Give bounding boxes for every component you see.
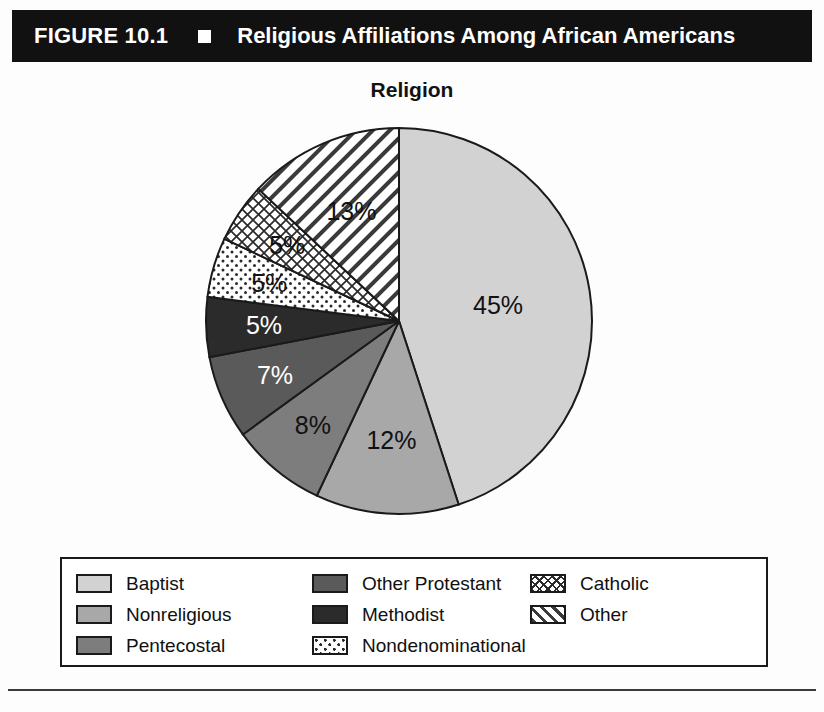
legend-swatch-icon (76, 636, 112, 655)
legend-swatch-icon (312, 574, 348, 593)
legend-swatch-icon (312, 605, 348, 624)
pie-slice-label: 8% (295, 411, 331, 439)
legend-swatch-icon (530, 574, 566, 593)
figure-title: Religious Affiliations Among African Ame… (237, 23, 735, 49)
legend-item-label: Methodist (362, 604, 444, 626)
legend-swatch-icon (312, 636, 348, 655)
figure-header-bar: FIGURE 10.1 Religious Affiliations Among… (12, 10, 812, 62)
legend-item[interactable]: Catholic (530, 573, 784, 595)
pie-slice-label: 12% (366, 426, 416, 454)
legend: BaptistOther ProtestantCatholicNonreligi… (60, 557, 768, 667)
legend-item-label: Catholic (580, 573, 649, 595)
bottom-divider (8, 689, 816, 691)
legend-item[interactable]: Nonreligious (76, 604, 312, 626)
figure-number: FIGURE 10.1 (34, 23, 168, 49)
legend-item-label: Baptist (126, 573, 184, 595)
legend-item[interactable]: Nondenominational (312, 635, 530, 657)
legend-item[interactable]: Other Protestant (312, 573, 530, 595)
legend-item[interactable]: Other (530, 604, 784, 626)
legend-swatch-icon (76, 605, 112, 624)
pie-slice-label: 45% (473, 291, 523, 319)
chart-title: Religion (0, 78, 824, 102)
legend-item-label: Other Protestant (362, 573, 501, 595)
legend-item-label: Nonreligious (126, 604, 232, 626)
pie-chart-svg: 45%12%8%7%5%5%5%13% (0, 110, 824, 540)
legend-item[interactable]: Pentecostal (76, 635, 312, 657)
black-square-icon (198, 30, 211, 43)
pie-slice-label: 5% (246, 311, 282, 339)
legend-item[interactable]: Baptist (76, 573, 312, 595)
pie-slice-label: 5% (251, 269, 287, 297)
legend-swatch-icon (76, 574, 112, 593)
pie-slice-label: 5% (269, 231, 305, 259)
legend-item-label: Other (580, 604, 628, 626)
legend-item-label: Pentecostal (126, 635, 225, 657)
legend-item-label: Nondenominational (362, 635, 526, 657)
pie-slice-label: 7% (257, 361, 293, 389)
legend-grid: BaptistOther ProtestantCatholicNonreligi… (76, 568, 766, 661)
legend-item[interactable]: Methodist (312, 604, 530, 626)
pie-chart: 45%12%8%7%5%5%5%13% (0, 110, 824, 540)
pie-slice-label: 13% (326, 197, 376, 225)
legend-swatch-icon (530, 605, 566, 624)
